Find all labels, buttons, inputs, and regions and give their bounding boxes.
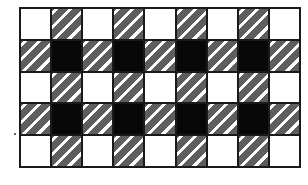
hatch-cell [269, 40, 300, 72]
black-cell [238, 40, 269, 72]
stray-mark [14, 133, 16, 135]
hatch-cell [144, 103, 175, 135]
black-cell [176, 40, 207, 72]
hatch-cell [82, 40, 113, 72]
black-cell [113, 40, 144, 72]
white-cell [144, 8, 175, 40]
hatch-cell [82, 103, 113, 135]
hatch-cell [238, 135, 269, 167]
hatch-cell [207, 103, 238, 135]
hatch-cell [51, 72, 82, 104]
black-cell [176, 103, 207, 135]
white-cell [20, 135, 51, 167]
white-cell [82, 135, 113, 167]
white-cell [207, 8, 238, 40]
hatch-cell [113, 72, 144, 104]
hatch-cell [144, 40, 175, 72]
white-cell [269, 72, 300, 104]
white-cell [144, 72, 175, 104]
white-cell [82, 72, 113, 104]
white-cell [20, 72, 51, 104]
hatch-cell [207, 40, 238, 72]
hatch-cell [238, 8, 269, 40]
hatch-cell [20, 40, 51, 72]
white-cell [269, 8, 300, 40]
white-cell [207, 135, 238, 167]
hatch-cell [113, 135, 144, 167]
hatch-cell [113, 8, 144, 40]
white-cell [269, 135, 300, 167]
hatch-cell [269, 103, 300, 135]
black-cell [238, 103, 269, 135]
white-cell [207, 72, 238, 104]
black-cell [113, 103, 144, 135]
hatch-cell [176, 8, 207, 40]
white-cell [82, 8, 113, 40]
black-cell [51, 40, 82, 72]
black-cell [51, 103, 82, 135]
white-cell [20, 8, 51, 40]
hatch-cell [51, 8, 82, 40]
hatch-cell [176, 72, 207, 104]
gingham-pattern-grid [19, 7, 301, 168]
white-cell [144, 135, 175, 167]
hatch-cell [51, 135, 82, 167]
hatch-cell [20, 103, 51, 135]
hatch-cell [176, 135, 207, 167]
hatch-cell [238, 72, 269, 104]
